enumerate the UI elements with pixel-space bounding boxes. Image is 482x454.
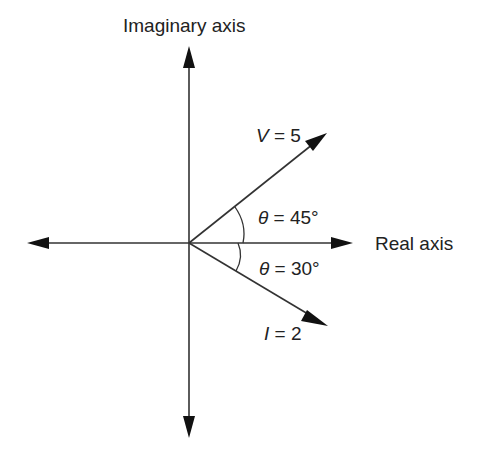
phasor-i-label: I = 2: [264, 323, 302, 344]
phasor-diagram: Imaginary axis Real axis V = 5 θ = 45° θ…: [0, 0, 482, 454]
imaginary-axis-down-arrow-icon: [183, 416, 195, 438]
phasor-i: [189, 243, 328, 326]
real-axis-label: Real axis: [375, 233, 453, 254]
angle-label-45: θ = 45°: [258, 207, 319, 228]
angle-label-30: θ = 30°: [259, 258, 320, 279]
imaginary-axis-label: Imaginary axis: [123, 15, 246, 36]
phasor-v-label: V = 5: [256, 125, 301, 146]
real-axis-left-arrow-icon: [27, 237, 49, 249]
angle-arc-30: [236, 243, 241, 271]
imaginary-axis-up-arrow-icon: [183, 46, 195, 68]
real-axis-right-arrow-icon: [331, 237, 353, 249]
angle-arc-45: [235, 207, 244, 243]
